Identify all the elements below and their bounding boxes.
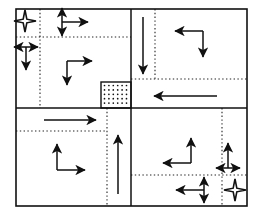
star-marker-top-left — [14, 10, 36, 32]
stipple-dot — [121, 85, 123, 87]
star-marker-bottom-right — [224, 179, 246, 201]
stipple-dot — [117, 102, 119, 104]
stipple-dot — [112, 89, 114, 91]
stipple-dot — [104, 102, 106, 104]
stipple-dot — [121, 89, 123, 91]
elbow-arrow-q4 — [163, 138, 191, 163]
stipple-dot — [126, 93, 128, 95]
stipple-dot — [108, 85, 110, 87]
stipple-dot — [126, 89, 128, 91]
stipple-dot — [121, 93, 123, 95]
elbow-arrow-q3 — [57, 144, 85, 170]
elbow-arrow-q1-c — [67, 61, 92, 85]
stipple-dot — [117, 93, 119, 95]
frame-layer — [16, 9, 247, 206]
stipple-dot — [104, 85, 106, 87]
stipple-dot — [108, 89, 110, 91]
stipple-dot — [108, 102, 110, 104]
stipple-dot — [126, 85, 128, 87]
stipple-dot — [104, 93, 106, 95]
decomposition-diagram — [0, 0, 262, 216]
stipple-dot — [121, 102, 123, 104]
stipple-dot — [117, 89, 119, 91]
figure-root — [0, 0, 262, 216]
stipple-dot — [117, 85, 119, 87]
stipple-dot — [117, 98, 119, 100]
stipple-dot — [104, 98, 106, 100]
diagram-canvas — [0, 0, 262, 216]
elbow-arrow-q2 — [175, 31, 203, 57]
stipple-dot — [112, 102, 114, 104]
stipple-dot — [108, 93, 110, 95]
stipple-dot — [126, 98, 128, 100]
stipple-dot — [112, 93, 114, 95]
stipple-dot — [104, 89, 106, 91]
stipple-dot — [126, 102, 128, 104]
stipple-dot — [112, 85, 114, 87]
stipple-dot — [108, 98, 110, 100]
stipple-dot — [112, 98, 114, 100]
stipple-layer — [101, 82, 131, 108]
stipple-dot — [121, 98, 123, 100]
